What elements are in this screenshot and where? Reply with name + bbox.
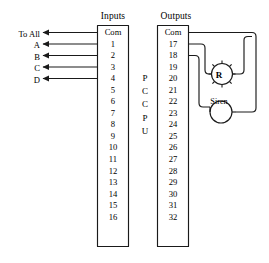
controller-label-char: U xyxy=(137,125,153,138)
schematic-drawing xyxy=(0,0,269,263)
arrowhead-c xyxy=(43,64,50,70)
input-label-to-all: To All xyxy=(6,29,40,39)
device-r-label: R xyxy=(211,70,227,80)
controller-label-char: C xyxy=(137,85,153,98)
input-label-b: B xyxy=(6,52,40,62)
output-terminal: 25 xyxy=(158,131,188,143)
input-terminal: 1 xyxy=(98,39,128,51)
controller-label: P C C P U xyxy=(137,72,153,138)
input-terminal: 15 xyxy=(98,200,128,212)
output-terminal: 26 xyxy=(158,142,188,154)
input-terminal: 7 xyxy=(98,108,128,120)
input-terminal: 12 xyxy=(98,166,128,178)
input-label-a: A xyxy=(6,40,40,50)
inputs-block-header: Inputs xyxy=(97,11,129,21)
inputs-terminal-list: Com 1 2 3 4 5 6 7 8 9 10 11 12 13 14 15 … xyxy=(98,27,128,223)
input-terminal: 2 xyxy=(98,50,128,62)
controller-label-char: P xyxy=(137,112,153,125)
output-terminal: 20 xyxy=(158,73,188,85)
output-terminal: 32 xyxy=(158,212,188,224)
input-terminal: 6 xyxy=(98,96,128,108)
controller-label-char: C xyxy=(137,98,153,111)
outputs-block-header: Outputs xyxy=(157,11,195,21)
output-terminal: 17 xyxy=(158,39,188,51)
output-terminal: 23 xyxy=(158,108,188,120)
output-terminal: 21 xyxy=(158,85,188,97)
input-terminal: 3 xyxy=(98,62,128,74)
input-terminal: 13 xyxy=(98,177,128,189)
input-terminal: 5 xyxy=(98,85,128,97)
input-terminal: 14 xyxy=(98,189,128,201)
input-terminal: 16 xyxy=(98,212,128,224)
input-terminal: 10 xyxy=(98,142,128,154)
output-terminal: 27 xyxy=(158,154,188,166)
input-terminal: Com xyxy=(98,27,128,39)
wire-r-return xyxy=(232,37,252,75)
output-terminal: 18 xyxy=(158,50,188,62)
controller-label-char: P xyxy=(137,72,153,85)
arrowhead-to-all xyxy=(43,30,50,36)
arrowhead-b xyxy=(43,53,50,59)
input-terminal: 8 xyxy=(98,119,128,131)
output-terminal: 19 xyxy=(158,62,188,74)
output-terminal: Com xyxy=(158,27,188,39)
input-label-c: C xyxy=(6,63,40,73)
outputs-terminal-list: Com 17 18 19 20 21 22 23 24 25 26 27 28 … xyxy=(158,27,188,223)
input-label-d: D xyxy=(6,75,40,85)
output-terminal: 28 xyxy=(158,166,188,178)
output-terminal: 22 xyxy=(158,96,188,108)
input-terminal: 9 xyxy=(98,131,128,143)
input-arrowheads xyxy=(43,30,50,82)
device-siren-label: Siren xyxy=(196,97,242,106)
input-terminal: 11 xyxy=(98,154,128,166)
input-terminal: 4 xyxy=(98,73,128,85)
arrowhead-d xyxy=(43,76,50,82)
output-terminal: 29 xyxy=(158,177,188,189)
output-terminal: 24 xyxy=(158,119,188,131)
output-terminal: 31 xyxy=(158,200,188,212)
arrowhead-a xyxy=(43,41,50,47)
output-terminal: 30 xyxy=(158,189,188,201)
wiring-diagram: Inputs Outputs Com 1 2 3 4 5 6 7 8 9 10 … xyxy=(0,0,269,263)
wire-17-to-r xyxy=(189,44,213,74)
